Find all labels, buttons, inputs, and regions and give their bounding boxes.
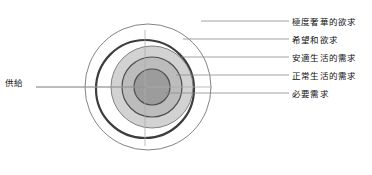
label-normal-living: 正常生活的需求 <box>292 71 356 81</box>
label-comfortable-living: 安適生活的需求 <box>292 53 356 63</box>
label-essential-needs: 必要需求 <box>292 89 329 99</box>
label-hopes-and-desires: 希望和欲求 <box>292 35 338 45</box>
needs-hierarchy-diagram: 供給 極度奢華的欲求 希望和欲求 安適生活的需求 正常生活的需求 必要需求 <box>0 0 372 175</box>
label-extreme-luxury: 極度奢華的欲求 <box>292 17 356 27</box>
label-supply: 供給 <box>5 78 23 88</box>
